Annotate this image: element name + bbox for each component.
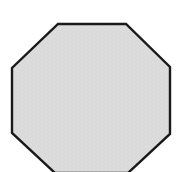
- figure-canvas: Light gray octagon with a thick black ou…: [0, 0, 178, 172]
- octagon-figure: Light gray octagon with a thick black ou…: [0, 0, 178, 172]
